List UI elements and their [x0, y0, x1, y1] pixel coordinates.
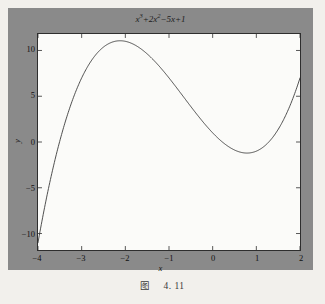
- x-axis-label: x: [8, 263, 313, 273]
- x-tick-label-neg4: −4: [25, 253, 49, 263]
- x-tick-label-1: 1: [245, 253, 269, 263]
- y-tick-label-neg5: −5: [11, 183, 35, 193]
- figure-caption: 图 4. 11: [0, 278, 325, 292]
- x-tick-label-2: 2: [289, 253, 313, 263]
- caption-number: 4. 11: [163, 281, 184, 291]
- matlab-figure-panel: x3+2x2−5x+1 10 5 0 −5 −10 −4 −3 −2 −1 0 …: [8, 8, 313, 270]
- chart-title: x3+2x2−5x+1: [8, 12, 313, 24]
- caption-label: 图: [140, 280, 151, 291]
- y-tick-label-5: 5: [11, 90, 35, 100]
- x-tick-label-0: 0: [201, 253, 225, 263]
- y-tick-label-10: 10: [11, 44, 35, 54]
- y-axis-label: y: [12, 134, 22, 148]
- plot-area: [38, 34, 300, 250]
- y-tick-label-neg10: −10: [11, 229, 35, 239]
- axis-ticks: [38, 34, 300, 250]
- x-tick-label-neg3: −3: [69, 253, 93, 263]
- plot-axes-box: [37, 33, 301, 251]
- x-tick-label-neg2: −2: [113, 253, 137, 263]
- chart-title-mid: +2: [143, 14, 154, 24]
- x-tick-label-neg1: −1: [157, 253, 181, 263]
- chart-title-tail: −5x+1: [160, 14, 185, 24]
- figure-page: x3+2x2−5x+1 10 5 0 −5 −10 −4 −3 −2 −1 0 …: [0, 0, 325, 304]
- cubic-curve: [38, 41, 300, 243]
